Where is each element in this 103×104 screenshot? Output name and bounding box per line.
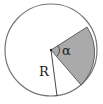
center-point [50,49,52,51]
sector-diagram: α R [0,0,103,104]
angle-label: α [62,43,71,58]
radius-label: R [39,64,50,79]
